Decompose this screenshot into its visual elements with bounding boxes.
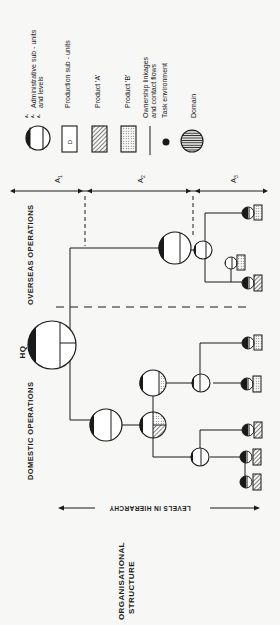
legend-admin-subunit-icon [26,126,50,150]
legend-product-b-icon [121,126,136,152]
levels-in-hierarchy-axis: LEVELS IN HIERARCHY [58,505,260,512]
domestic-product-b-unit-node [139,370,167,396]
leaf-domestic-a-3 [240,474,261,490]
legend-linkage-label-2: and contact flows [150,63,157,118]
levels-in-hierarchy-label: LEVELS IN HIERARCHY [109,505,191,512]
levels-axis: A1 A2 A3 [10,175,268,194]
leaf-domestic-a-2 [240,449,261,465]
ownership-linkages [70,213,245,482]
leaf-domestic-b-2 [241,376,261,392]
legend-product-a-label: Product 'A' [94,75,101,108]
svg-text:A1: A1 [53,175,63,183]
overseas-admin-node [159,232,191,264]
legend-linkage-label: Ownership linkages [142,56,150,118]
domestic-mixed-unit-node [139,412,166,438]
legend-domain-icon [181,130,203,152]
leaf-overseas-1 [242,205,262,220]
leaf-domestic-a-1 [242,422,262,438]
leaf-overseas-3 [242,275,262,291]
overseas-mid-node [225,257,237,269]
level-label-a2: A2 [136,175,146,183]
domestic-b-subunit-node [192,374,210,392]
legend-product-b-label: Product 'B' [124,75,131,108]
legend-level-mark-a1: A₁ [36,113,41,118]
level-label-a3: A3 [229,175,239,183]
legend-task-environment-label: Task environment [161,63,168,118]
domestic-operations-label: DOMESTIC OPERATIONS [26,382,35,480]
org-structure-diagram: A₃ A₂ A₁ Administrative sub - units and … [0,0,280,625]
leaf-domestic-b-1 [242,335,262,350]
overseas-subunit-node [194,241,212,259]
leaf-overseas-2 [237,255,245,270]
hq-label: HQ [18,346,27,359]
legend-product-a-icon [92,126,107,152]
legend-production-box-icon: D [62,126,77,152]
legend-admin-label: Administrative sub - units [30,29,37,108]
domestic-a-subunit-node [191,448,209,466]
legend-domain-label: Domain [190,94,197,118]
domestic-admin-node [90,409,122,441]
level-label-a1: A1 [53,175,63,183]
hq-node [28,321,76,369]
svg-text:A3: A3 [229,175,239,183]
svg-text:D: D [67,139,73,144]
legend-level-mark-a3: A₃ [24,113,29,118]
legend-admin-label-2: and levels [37,76,44,108]
legend-level-mark-a2: A₂ [30,113,35,118]
figure-title-line-2: STRUCTURE [127,561,136,614]
svg-text:A2: A2 [136,175,146,183]
legend: A₃ A₂ A₁ Administrative sub - units and … [24,29,203,155]
figure-title-line-1: ORGANISATIONAL [117,542,126,620]
legend-production-label: Production sub - units [64,40,71,108]
overseas-operations-label: OVERSEAS OPERATIONS [26,205,35,305]
legend-task-environment-icon [163,139,170,146]
